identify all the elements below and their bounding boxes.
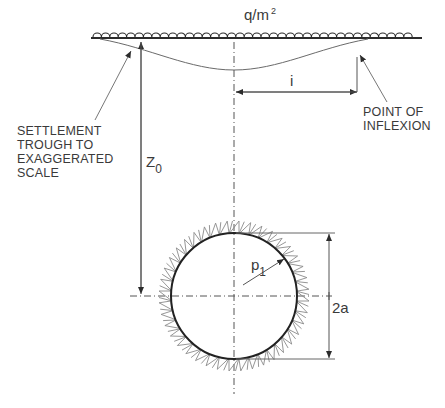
inflexion-distance-symbol: i [290, 72, 293, 89]
settlement-trough-note: SETTLEMENT TROUGH TO EXAGGERATED SCALE [17, 124, 113, 180]
inflexion-note-line-1: POINT OF [363, 105, 431, 119]
settlement-note-line-3: EXAGGERATED [17, 152, 113, 166]
load-label: q/m2 [244, 6, 276, 23]
depth-subscript: 0 [155, 162, 162, 176]
inflexion-note-line-2: INFLEXION [363, 119, 431, 133]
surcharge-load-scallops [93, 33, 412, 37]
pressure-p1-label: p1 [251, 256, 266, 273]
settlement-note-line-4: SCALE [17, 166, 113, 180]
load-label-text: q/m [244, 6, 269, 23]
settlement-note-line-1: SETTLEMENT [17, 124, 113, 138]
settlement-diagram [0, 0, 445, 408]
depth-z0-label: Z0 [146, 153, 162, 170]
inflexion-distance-label: i [290, 72, 293, 89]
settlement-trough-leader [95, 51, 131, 120]
load-label-superscript: 2 [271, 6, 276, 16]
diameter-label-text: 2a [332, 299, 349, 316]
inflexion-point-note: POINT OF INFLEXION [363, 105, 431, 133]
settlement-note-line-2: TROUGH TO [17, 138, 113, 152]
depth-symbol: Z [146, 153, 155, 170]
diameter-2a-label: 2a [332, 299, 349, 316]
inflexion-point-leader [360, 55, 387, 102]
pressure-subscript: 1 [259, 265, 266, 279]
